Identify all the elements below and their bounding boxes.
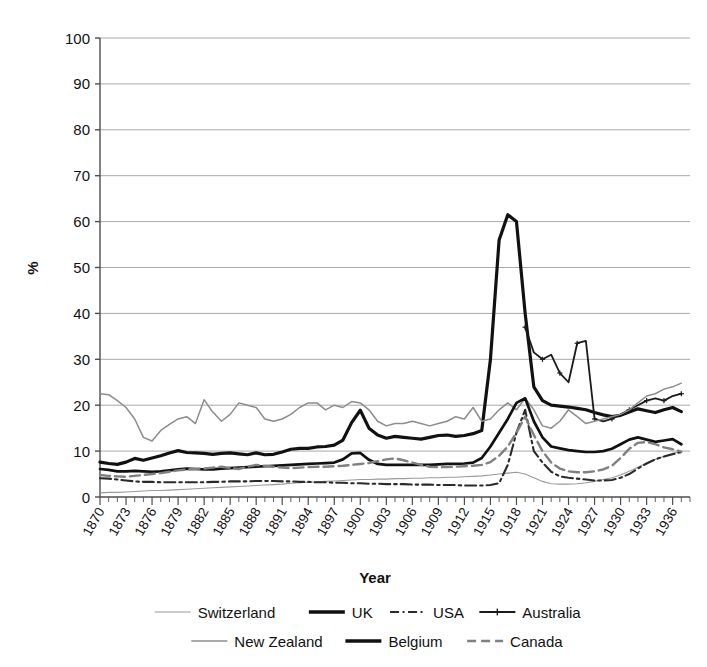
- y-tick-label: 60: [73, 213, 90, 230]
- legend-label: New Zealand: [234, 633, 322, 650]
- y-tick-label: 30: [73, 351, 90, 368]
- y-tick-label: 70: [73, 167, 90, 184]
- y-axis-title: %: [24, 261, 41, 274]
- y-tick-label: 90: [73, 75, 90, 92]
- legend-label: UK: [352, 604, 373, 621]
- y-tick-label: 40: [73, 305, 90, 322]
- legend-label: Canada: [510, 633, 563, 650]
- x-axis-title: Year: [359, 569, 391, 586]
- y-tick-label: 0: [82, 489, 90, 506]
- line-chart: 0102030405060708090100 18701873187618791…: [0, 0, 707, 667]
- y-tick-label: 10: [73, 443, 90, 460]
- legend-label: Australia: [522, 604, 581, 621]
- y-tick-label: 80: [73, 121, 90, 138]
- legend-label: USA: [433, 604, 464, 621]
- y-tick-label: 100: [65, 30, 90, 47]
- y-tick-label: 20: [73, 397, 90, 414]
- chart-background: [0, 0, 707, 667]
- y-tick-label: 50: [73, 259, 90, 276]
- legend-label: Switzerland: [198, 604, 276, 621]
- legend-label: Belgium: [388, 633, 442, 650]
- chart-figure: 0102030405060708090100 18701873187618791…: [0, 0, 707, 667]
